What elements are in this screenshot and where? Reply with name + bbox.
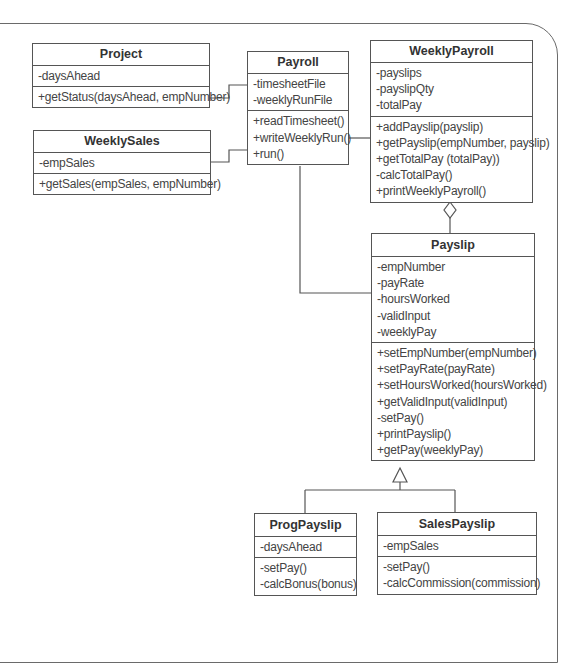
attribute: -empNumber bbox=[377, 259, 534, 275]
operation: +getSales(empSales, empNumber) bbox=[39, 176, 210, 192]
operation: +writeWeeklyRun() bbox=[253, 130, 348, 146]
attribute: -hoursWorked bbox=[377, 291, 534, 307]
operation: -calcBonus(bonus) bbox=[260, 576, 356, 592]
attribute: -payslips bbox=[376, 65, 532, 81]
class-name: Project bbox=[33, 44, 209, 66]
attribute: -daysAhead bbox=[260, 539, 356, 555]
attribute: -empSales bbox=[383, 538, 536, 554]
class-name: WeeklySales bbox=[34, 131, 210, 153]
attribute: -payslipQty bbox=[376, 81, 532, 97]
operation: +printWeeklyPayroll() bbox=[376, 183, 532, 199]
operations-section: +readTimesheet() +writeWeeklyRun() +run(… bbox=[248, 110, 348, 164]
attributes-section: -daysAhead bbox=[33, 66, 209, 86]
attributes-section: -daysAhead bbox=[255, 537, 356, 557]
attribute: -empSales bbox=[39, 155, 210, 171]
aggregation-diamond-icon bbox=[444, 202, 456, 218]
attributes-section: -empNumber -payRate -hoursWorked -validI… bbox=[372, 257, 534, 342]
attribute: -timesheetFile bbox=[253, 76, 348, 92]
generalization-triangle-icon bbox=[393, 468, 407, 482]
operations-section: +setEmpNumber(empNumber) +setPayRate(pay… bbox=[372, 342, 534, 460]
attributes-section: -payslips -payslipQty -totalPay bbox=[371, 63, 532, 116]
operation: -calcCommission(commission) bbox=[383, 575, 536, 591]
class-prog-payslip[interactable]: ProgPayslip -daysAhead -setPay() -calcBo… bbox=[254, 513, 357, 596]
class-weekly-payroll[interactable]: WeeklyPayroll -payslips -payslipQty -tot… bbox=[370, 40, 533, 203]
operation: +getPayslip(empNumber, payslip) bbox=[376, 135, 532, 151]
operation: -setPay() bbox=[383, 559, 536, 575]
class-name: SalesPayslip bbox=[378, 513, 536, 536]
operations-section: -setPay() -calcBonus(bonus) bbox=[255, 557, 356, 594]
operation: +setEmpNumber(empNumber) bbox=[377, 345, 534, 361]
operation: -setPay() bbox=[260, 560, 356, 576]
class-payroll[interactable]: Payroll -timesheetFile -weeklyRunFile +r… bbox=[247, 51, 349, 165]
attribute: -validInput bbox=[377, 308, 534, 324]
operation: -calcTotalPay() bbox=[376, 167, 532, 183]
class-project[interactable]: Project -daysAhead +getStatus(daysAhead,… bbox=[32, 43, 210, 108]
operation: +addPayslip(payslip) bbox=[376, 119, 532, 135]
class-name: ProgPayslip bbox=[255, 514, 356, 537]
attribute: -weeklyPay bbox=[377, 324, 534, 340]
class-name: Payroll bbox=[248, 52, 348, 74]
operation: +setPayRate(payRate) bbox=[377, 361, 534, 377]
operations-section: +addPayslip(payslip) +getPayslip(empNumb… bbox=[371, 116, 532, 202]
operation: +setHoursWorked(hoursWorked) bbox=[377, 377, 534, 393]
operation: +readTimesheet() bbox=[253, 113, 348, 129]
attribute: -payRate bbox=[377, 275, 534, 291]
operations-section: +getSales(empSales, empNumber) bbox=[34, 173, 210, 194]
class-sales-payslip[interactable]: SalesPayslip -empSales -setPay() -calcCo… bbox=[377, 512, 537, 595]
operation: -setPay() bbox=[377, 410, 534, 426]
attribute: -weeklyRunFile bbox=[253, 92, 348, 108]
class-name: Payslip bbox=[372, 234, 534, 257]
attributes-section: -timesheetFile -weeklyRunFile bbox=[248, 74, 348, 110]
operation: +getValidInput(validInput) bbox=[377, 394, 534, 410]
operations-section: +getStatus(daysAhead, empNumber) bbox=[33, 86, 209, 107]
class-weekly-sales[interactable]: WeeklySales -empSales +getSales(empSales… bbox=[33, 130, 211, 195]
operation: +getPay(weeklyPay) bbox=[377, 442, 534, 458]
attributes-section: -empSales bbox=[378, 536, 536, 556]
attribute: -totalPay bbox=[376, 97, 532, 113]
association-weeklysales-payroll bbox=[211, 150, 247, 162]
operation: +getStatus(daysAhead, empNumber) bbox=[38, 89, 209, 105]
attribute: -daysAhead bbox=[38, 68, 209, 84]
operation: +getTotalPay (totalPay)) bbox=[376, 151, 532, 167]
association-payroll-payslip bbox=[300, 166, 371, 293]
operation: +run() bbox=[253, 146, 348, 162]
class-payslip[interactable]: Payslip -empNumber -payRate -hoursWorked… bbox=[371, 233, 535, 461]
operations-section: -setPay() -calcCommission(commission) bbox=[378, 556, 536, 593]
attributes-section: -empSales bbox=[34, 153, 210, 173]
class-name: WeeklyPayroll bbox=[371, 41, 532, 63]
operation: +printPayslip() bbox=[377, 426, 534, 442]
